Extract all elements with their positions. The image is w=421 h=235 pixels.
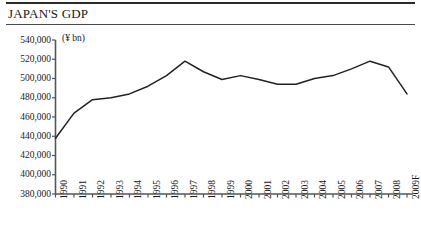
line-chart-plot [0,0,421,235]
data-line-GDP [56,61,408,138]
chart-series-layer [56,61,408,138]
chart-axes [52,40,413,198]
chart-figure: JAPAN'S GDP (¥ bn) 540,000520,000500,000… [0,0,421,235]
